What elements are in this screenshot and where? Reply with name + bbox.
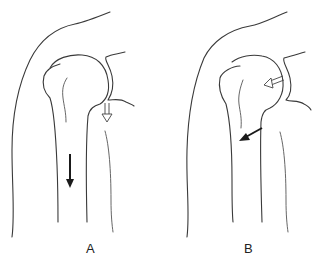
panel-b-scapula-border	[280, 132, 288, 232]
shoulder-diagram	[0, 0, 313, 265]
panel-b-label: B	[244, 242, 253, 255]
panel-a-hollow-arrow	[102, 103, 112, 122]
panel-b-humeral-head	[232, 55, 283, 222]
panel-b-solid-arrow	[239, 128, 262, 141]
panel-b-glenoid	[284, 52, 311, 110]
panel-a-scapula-border	[105, 131, 113, 232]
panel-b-neck-line	[239, 80, 243, 128]
panel-b-tuberosity	[219, 66, 240, 222]
panel-a-neck-line	[63, 78, 67, 122]
panel-a-glenoid	[106, 52, 134, 106]
panel-b-drawing	[187, 12, 311, 237]
panel-b-hollow-arrow	[264, 76, 284, 88]
panel-a-humeral-head	[50, 55, 109, 222]
panel-a-skin-outline	[12, 12, 110, 237]
panel-a-drawing	[12, 12, 134, 237]
panel-b-skin-outline	[187, 12, 287, 237]
panel-a-label: A	[86, 242, 95, 255]
panel-a-tuberosity	[43, 64, 60, 222]
panel-a-solid-arrow	[66, 154, 74, 188]
